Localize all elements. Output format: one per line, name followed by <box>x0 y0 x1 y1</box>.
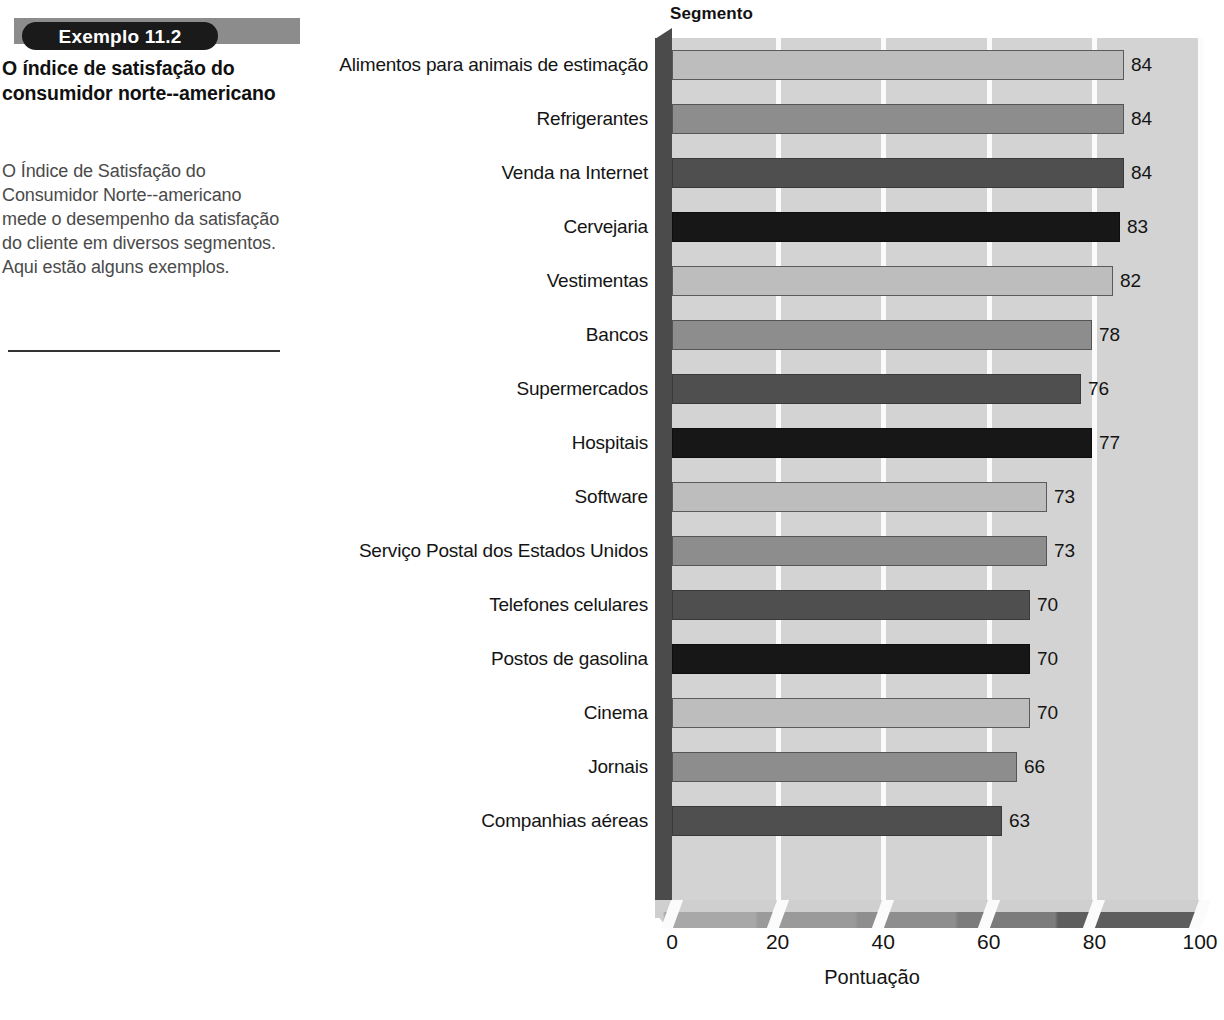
bar-value-label: 70 <box>1037 698 1058 728</box>
bar-value-label: 66 <box>1024 752 1045 782</box>
bar <box>672 104 1124 134</box>
category-label: Telefones celulares <box>280 578 648 632</box>
callout-body-text: O Índice de Satisfação do Consumidor Nor… <box>2 160 280 280</box>
example-badge-label: Exemplo 11.2 <box>59 27 182 46</box>
bar-value-label: 84 <box>1131 50 1152 80</box>
bar <box>672 482 1047 512</box>
bar-value-label: 84 <box>1131 104 1152 134</box>
category-label: Jornais <box>280 740 648 794</box>
bar-row: Serviço Postal dos Estados Unidos73 <box>280 524 1224 578</box>
category-label: Refrigerantes <box>280 92 648 146</box>
example-callout: Exemplo 11.2 O índice de satisfação do c… <box>0 0 300 380</box>
x-tick-80: 80 <box>1064 930 1124 954</box>
x-tick-40: 40 <box>853 930 913 954</box>
category-label: Bancos <box>280 308 648 362</box>
bar <box>672 50 1124 80</box>
bar-row: Telefones celulares70 <box>280 578 1224 632</box>
plot-floor-front-3d <box>655 912 1200 928</box>
bar <box>672 752 1017 782</box>
bar-row: Refrigerantes84 <box>280 92 1224 146</box>
bar-row: Hospitais77 <box>280 416 1224 470</box>
bar-value-label: 83 <box>1127 212 1148 242</box>
category-label: Cinema <box>280 686 648 740</box>
bar-value-label: 70 <box>1037 590 1058 620</box>
bar <box>672 644 1030 674</box>
bar-value-label: 73 <box>1054 482 1075 512</box>
bar-value-label: 63 <box>1009 806 1030 836</box>
example-badge: Exemplo 11.2 <box>22 22 218 50</box>
bar-row: Alimentos para animais de estimação84 <box>280 38 1224 92</box>
category-label: Software <box>280 470 648 524</box>
category-label: Alimentos para animais de estimação <box>280 38 648 92</box>
category-label: Cervejaria <box>280 200 648 254</box>
bar-value-label: 76 <box>1088 374 1109 404</box>
x-tick-100: 100 <box>1170 930 1224 954</box>
bar-row: Venda na Internet84 <box>280 146 1224 200</box>
bar-row: Cervejaria83 <box>280 200 1224 254</box>
bar-row: Postos de gasolina70 <box>280 632 1224 686</box>
bar-value-label: 73 <box>1054 536 1075 566</box>
bar-value-label: 70 <box>1037 644 1058 674</box>
bar-row: Bancos78 <box>280 308 1224 362</box>
bar-value-label: 77 <box>1099 428 1120 458</box>
bar <box>672 698 1030 728</box>
bar <box>672 212 1120 242</box>
bar <box>672 590 1030 620</box>
category-label: Supermercados <box>280 362 648 416</box>
bar <box>672 158 1124 188</box>
category-label: Serviço Postal dos Estados Unidos <box>280 524 648 578</box>
category-label: Postos de gasolina <box>280 632 648 686</box>
bar <box>672 374 1081 404</box>
bar-value-label: 78 <box>1099 320 1120 350</box>
callout-divider <box>8 350 280 352</box>
bar <box>672 320 1092 350</box>
bar-value-label: 84 <box>1131 158 1152 188</box>
bar-value-label: 82 <box>1120 266 1141 296</box>
bar-row: Companhias aéreas63 <box>280 794 1224 848</box>
x-tick-0: 0 <box>642 930 702 954</box>
callout-title: O índice de satisfação do consumidor nor… <box>2 56 298 107</box>
category-label: Companhias aéreas <box>280 794 648 848</box>
bar <box>672 266 1113 296</box>
x-axis-title: Pontuação <box>280 966 1224 989</box>
x-tick-20: 20 <box>748 930 808 954</box>
category-label: Venda na Internet <box>280 146 648 200</box>
bar-row: Supermercados76 <box>280 362 1224 416</box>
category-label: Vestimentas <box>280 254 648 308</box>
bar-row: Vestimentas82 <box>280 254 1224 308</box>
bar-row: Jornais66 <box>280 740 1224 794</box>
bar-chart: Segmento Alimentos para animais de estim… <box>280 0 1224 1020</box>
chart-axis-title-segmento: Segmento <box>670 4 753 24</box>
category-label: Hospitais <box>280 416 648 470</box>
bar-row: Software73 <box>280 470 1224 524</box>
bar <box>672 428 1092 458</box>
bar <box>672 806 1002 836</box>
bar <box>672 536 1047 566</box>
bar-row: Cinema70 <box>280 686 1224 740</box>
x-tick-60: 60 <box>959 930 1019 954</box>
